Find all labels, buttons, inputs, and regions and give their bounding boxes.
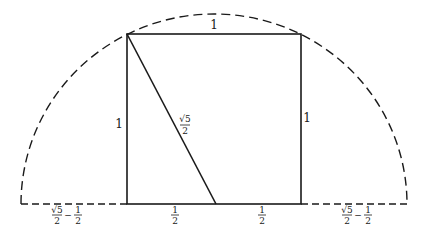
- right-extension-label: √5 2 − 1 2: [341, 205, 372, 226]
- left-side-label: 1: [115, 117, 123, 131]
- svg-text:2: 2: [54, 216, 60, 226]
- svg-text:−: −: [64, 210, 72, 220]
- svg-text:1: 1: [259, 205, 265, 215]
- svg-text:2: 2: [259, 216, 265, 226]
- diagonal-label: √5 2: [179, 114, 191, 136]
- svg-text:2: 2: [182, 126, 188, 136]
- svg-text:−: −: [354, 210, 362, 220]
- svg-text:2: 2: [172, 216, 178, 226]
- svg-text:2: 2: [365, 216, 371, 226]
- svg-text:2: 2: [344, 216, 350, 226]
- bottom-right-half-label: 1 2: [258, 205, 266, 226]
- golden-ratio-diagram: 1 1 1 √5 2 1 2 1 2 √5 2 − 1 2 √5 2 − 1 2: [0, 0, 431, 243]
- top-side-label: 1: [210, 18, 218, 32]
- svg-text:1: 1: [172, 205, 178, 215]
- svg-text:√5: √5: [179, 114, 191, 124]
- left-extension-label: √5 2 − 1 2: [51, 205, 82, 226]
- svg-text:1: 1: [75, 205, 81, 215]
- unit-square: [127, 34, 301, 204]
- svg-text:√5: √5: [51, 205, 63, 215]
- dashed-arc: [21, 14, 407, 204]
- svg-text:√5: √5: [341, 205, 353, 215]
- diagonal-line: [127, 34, 216, 204]
- svg-text:2: 2: [75, 216, 81, 226]
- right-side-label: 1: [303, 111, 311, 125]
- bottom-left-half-label: 1 2: [171, 205, 179, 226]
- svg-text:1: 1: [365, 205, 371, 215]
